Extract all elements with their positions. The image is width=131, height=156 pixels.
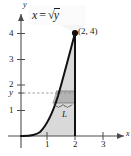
x-tick-label-2: 2 bbox=[73, 140, 78, 149]
equation-operator: = bbox=[37, 8, 48, 22]
x-tick-label-1: 1 bbox=[45, 140, 50, 149]
equation-radicand: y bbox=[54, 8, 60, 22]
y-tick-label-4: 4 bbox=[9, 29, 14, 38]
y-axis-label: y bbox=[23, 1, 27, 9]
equation-label: x=√y bbox=[32, 8, 60, 22]
y-tick-label-1: 1 bbox=[9, 106, 14, 115]
x-axis-arrow bbox=[117, 133, 124, 139]
y-variable-tick-label: y bbox=[9, 88, 13, 97]
y-tick-label-3: 3 bbox=[9, 55, 14, 64]
x-tick-label-3: 3 bbox=[101, 140, 106, 149]
marked-point-label: (2, 4) bbox=[78, 27, 98, 36]
x-axis-label: x bbox=[126, 130, 130, 138]
y-axis-arrow bbox=[18, 14, 24, 21]
strip-length-label: L bbox=[62, 110, 67, 119]
figure-graph-x-equals-sqrt-y: x=√y (2, 4) L 4 3 2 1 y 1 2 3 y x bbox=[0, 0, 131, 156]
